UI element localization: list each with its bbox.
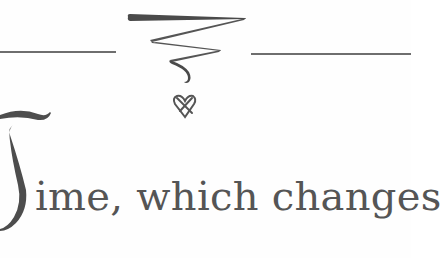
flourish-icon: [0, 0, 411, 130]
opening-line-text: ime, which changes: [35, 176, 441, 216]
